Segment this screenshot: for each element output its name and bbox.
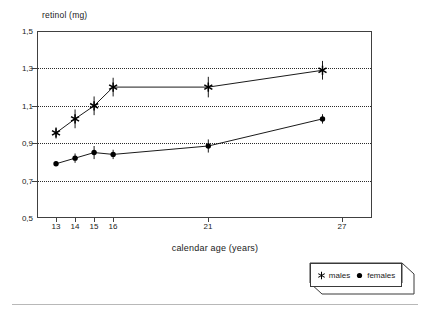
data-point-females-27 (320, 116, 325, 121)
legend-item-males: males (317, 271, 350, 280)
data-point-females-21 (206, 143, 211, 148)
data-point-males-14 (71, 114, 79, 123)
data-point-females-16 (110, 152, 115, 157)
data-point-females-14 (72, 155, 77, 160)
footer-divider (12, 304, 418, 305)
data-point-males-13 (52, 128, 60, 137)
chart-legend: males females (310, 263, 402, 287)
data-point-females-13 (53, 161, 58, 166)
legend-item-females: females (355, 271, 395, 280)
asterisk-star-icon (317, 271, 326, 280)
legend-label-females: females (367, 271, 395, 280)
figure-canvas: retinol (mg) 1,5 1,3 1,1 0,9 0,7 0,5 13 … (0, 0, 430, 313)
series-females (53, 114, 325, 166)
filled-circle-icon (355, 271, 364, 280)
data-point-females-15 (91, 150, 96, 155)
series-males (52, 61, 326, 139)
legend-label-males: males (329, 271, 350, 280)
